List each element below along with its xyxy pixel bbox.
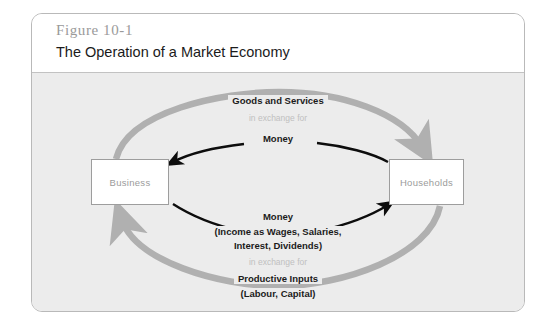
label-in-exchange-for-top: in exchange for	[32, 110, 524, 125]
arrow-money-top-left	[173, 144, 244, 162]
label-money-income-line3: Interest, Dividends)	[230, 240, 326, 251]
label-goods-text: Goods and Services	[228, 95, 327, 106]
figure-card: Figure 10-1 The Operation of a Market Ec…	[31, 13, 525, 312]
label-productive-inputs: Productive Inputs (Labour, Capital)	[32, 271, 524, 300]
entity-label-households: Households	[400, 177, 453, 188]
diagram-canvas: Business Households Goods and Services i…	[32, 73, 524, 312]
label-money-income-line1: Money	[259, 211, 297, 222]
arrow-money-top-right	[317, 143, 388, 162]
label-money-top: Money	[32, 131, 524, 146]
entity-box-business[interactable]: Business	[91, 159, 169, 205]
figure-header: Figure 10-1 The Operation of a Market Ec…	[32, 14, 524, 73]
label-money-top-text: Money	[259, 133, 297, 144]
figure-title: The Operation of a Market Economy	[56, 44, 290, 60]
label-productive-inputs-line1: Productive Inputs	[234, 273, 322, 284]
label-in-exchange-for-bottom-text: in exchange for	[245, 257, 311, 267]
label-in-exchange-for-top-text: in exchange for	[245, 113, 311, 123]
label-goods-and-services: Goods and Services	[32, 93, 524, 108]
label-productive-inputs-line2: (Labour, Capital)	[237, 288, 320, 299]
label-money-income: Money (Income as Wages, Salaries, Intere…	[32, 209, 524, 253]
entity-label-business: Business	[110, 177, 151, 188]
label-in-exchange-for-bottom: in exchange for	[32, 254, 524, 269]
figure-number: Figure 10-1	[56, 22, 133, 39]
label-money-income-line2: (Income as Wages, Salaries,	[211, 226, 346, 237]
entity-box-households[interactable]: Households	[389, 159, 464, 205]
